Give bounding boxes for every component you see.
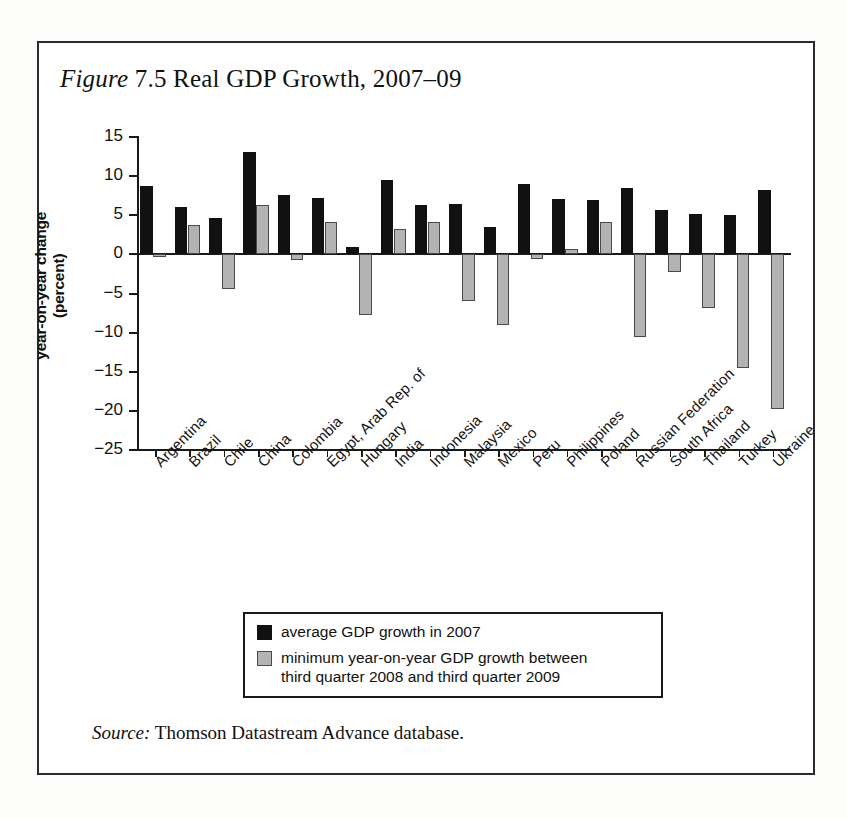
bar-minimum-2008-2009 [291, 254, 304, 259]
legend-label-minimum-2008-2009: minimum year-on-year GDP growth between … [281, 649, 587, 687]
y-axis-label: year-on-year change (percent) [32, 186, 68, 386]
bar-average-2007 [518, 184, 531, 254]
bar-average-2007 [278, 195, 291, 254]
bar-average-2007 [484, 227, 497, 254]
bar-minimum-2008-2009 [222, 254, 235, 288]
legend-label-line1: minimum year-on-year GDP growth between [281, 649, 587, 666]
bar-average-2007 [552, 199, 565, 255]
bar-minimum-2008-2009 [428, 222, 441, 254]
bar-average-2007 [346, 247, 359, 255]
bar-minimum-2008-2009 [600, 222, 613, 255]
bar-minimum-2008-2009 [359, 254, 372, 315]
y-axis-tick-value: 15 [83, 126, 123, 146]
bar-minimum-2008-2009 [737, 254, 750, 367]
y-axis-tick [129, 410, 138, 412]
bar-minimum-2008-2009 [325, 222, 338, 255]
bar-average-2007 [140, 186, 153, 254]
bar-minimum-2008-2009 [188, 225, 201, 255]
y-axis-tick [129, 332, 138, 334]
y-axis-tick-value: −20 [83, 400, 123, 420]
y-axis-tick [129, 136, 138, 138]
source-text: Thomson Datastream Advance database. [155, 722, 464, 743]
legend-item-average-2007: average GDP growth in 2007 [257, 623, 649, 642]
y-axis-tick-label: 15 [78, 126, 123, 146]
bar-average-2007 [621, 188, 634, 255]
bar-minimum-2008-2009 [153, 254, 166, 256]
source-label: Source: [92, 722, 150, 743]
bar-average-2007 [415, 205, 428, 254]
y-axis-tick-label: 5 [78, 204, 123, 224]
y-axis-tick-label: 0 [78, 243, 123, 263]
y-axis-tick-label: −20 [78, 400, 123, 420]
y-axis-tick-value: −10 [83, 322, 123, 342]
bar-minimum-2008-2009 [462, 254, 475, 301]
y-axis-tick-value: 0 [83, 243, 123, 263]
y-axis-tick [129, 175, 138, 177]
bar-average-2007 [175, 207, 188, 255]
bar-minimum-2008-2009 [634, 254, 647, 337]
y-axis-tick-label: −10 [78, 322, 123, 342]
y-axis-tick-value: −15 [83, 361, 123, 381]
bar-average-2007 [243, 152, 256, 255]
bar-average-2007 [758, 190, 771, 254]
legend-swatch-black-icon [257, 625, 272, 640]
legend-label-line2: third quarter 2008 and third quarter 200… [281, 668, 560, 685]
y-axis-tick [129, 371, 138, 373]
y-axis-tick-label: −15 [78, 361, 123, 381]
y-axis-tick-value: −5 [83, 283, 123, 303]
bar-average-2007 [724, 215, 737, 254]
y-axis-tick-label: −5 [78, 283, 123, 303]
y-axis-label-line2: (percent) [50, 254, 67, 319]
figure-page: Figure 7.5 Real GDP Growth, 2007–09 year… [0, 0, 847, 818]
bar-average-2007 [381, 180, 394, 254]
y-axis-tick-value: 10 [83, 165, 123, 185]
bar-minimum-2008-2009 [565, 249, 578, 254]
bar-average-2007 [449, 204, 462, 255]
y-axis-tick-value: −25 [83, 439, 123, 459]
bar-average-2007 [655, 210, 668, 255]
bar-minimum-2008-2009 [531, 254, 544, 259]
bar-average-2007 [689, 214, 702, 255]
legend-item-minimum-2008-2009: minimum year-on-year GDP growth between … [257, 649, 649, 687]
bar-average-2007 [209, 218, 222, 255]
bar-minimum-2008-2009 [771, 254, 784, 409]
y-axis-tick [129, 253, 138, 255]
y-axis-tick [129, 214, 138, 216]
legend-label-average-2007: average GDP growth in 2007 [281, 623, 481, 642]
source-note: Source: Thomson Datastream Advance datab… [92, 722, 464, 744]
bar-minimum-2008-2009 [702, 254, 715, 308]
bar-minimum-2008-2009 [668, 254, 681, 272]
y-axis-tick-label: 10 [78, 165, 123, 185]
y-axis-tick [129, 449, 138, 451]
legend-swatch-gray-icon [257, 651, 272, 666]
bar-minimum-2008-2009 [497, 254, 510, 324]
y-axis-tick [129, 293, 138, 295]
bar-average-2007 [312, 198, 325, 254]
y-axis-tick-label: −25 [78, 439, 123, 459]
y-axis-tick-value: 5 [83, 204, 123, 224]
y-axis-label-line1: year-on-year change [32, 212, 49, 360]
bar-minimum-2008-2009 [394, 229, 407, 255]
chart-legend: average GDP growth in 2007 minimum year-… [243, 612, 663, 698]
bar-average-2007 [587, 200, 600, 255]
bar-minimum-2008-2009 [256, 205, 269, 254]
